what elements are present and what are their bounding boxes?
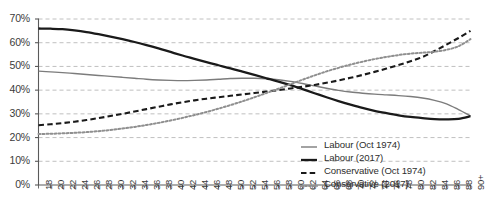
legend-swatch-icon (300, 165, 318, 177)
y-tick-label: 20% (0, 131, 30, 143)
x-tick-label: 32 (127, 180, 138, 190)
x-tick-label: 48 (223, 180, 234, 190)
legend-item: Conservative (2017) (300, 177, 426, 190)
y-tick-label: 60% (0, 36, 30, 48)
x-tick-label: 46 (211, 180, 222, 190)
legend-item: Conservative (Oct 1974) (300, 164, 426, 177)
legend-swatch-icon (300, 152, 318, 164)
x-tick-label: 28 (103, 180, 114, 190)
x-tick-label: 82 (427, 180, 438, 190)
x-tick-label: 22 (67, 180, 78, 190)
legend-swatch-icon (300, 178, 318, 190)
x-tick-label: 84 (439, 180, 450, 190)
legend-label: Labour (2017) (324, 152, 383, 163)
series-line-1 (39, 28, 471, 119)
data-series-group (39, 28, 471, 134)
x-tick-label: 56 (271, 180, 282, 190)
legend-item: Labour (2017) (300, 151, 426, 164)
x-tick-label: 24 (79, 180, 90, 190)
chart-legend: Labour (Oct 1974)Labour (2017)Conservati… (300, 138, 426, 190)
x-tick-label: 30 (115, 180, 126, 190)
x-tick-label: 26 (91, 180, 102, 190)
x-tick-label: 18 (43, 180, 54, 190)
x-tick-label: 34 (139, 180, 150, 190)
legend-label: Labour (Oct 1974) (324, 139, 400, 150)
legend-item: Labour (Oct 1974) (300, 138, 426, 151)
y-tick-label: 30% (0, 107, 30, 119)
x-tick-label: 88 (463, 180, 474, 190)
legend-label: Conservative (Oct 1974) (324, 165, 426, 176)
x-tick-label: 50 (235, 180, 246, 190)
x-tick-label: 42 (187, 180, 198, 190)
series-line-3 (39, 39, 471, 134)
x-tick-label: 38 (163, 180, 174, 190)
legend-label: Conservative (2017) (324, 178, 409, 189)
x-tick-label: 52 (247, 180, 258, 190)
y-tick-label: 40% (0, 83, 30, 95)
x-tick-label: 54 (259, 180, 270, 190)
y-tick-label: 0% (0, 178, 30, 190)
x-tick-label: 86 (451, 180, 462, 190)
y-tick-label: 10% (0, 154, 30, 166)
x-tick-label: 36 (151, 180, 162, 190)
x-tick-label: 90+ (475, 175, 486, 190)
y-tick-label: 50% (0, 59, 30, 71)
x-tick-label: 40 (175, 180, 186, 190)
x-tick-label: 20 (55, 180, 66, 190)
legend-swatch-icon (300, 139, 318, 151)
x-tick-label: 58 (283, 180, 294, 190)
x-tick-label: 44 (199, 180, 210, 190)
y-tick-label: 70% (0, 12, 30, 24)
